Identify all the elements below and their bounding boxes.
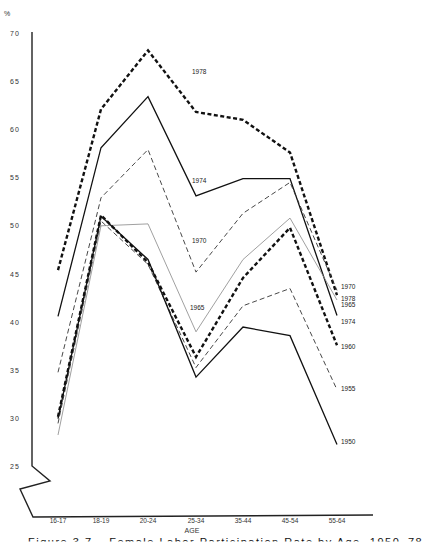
series-line-1960 [58, 215, 337, 417]
inline-label-1978: 1978 [192, 68, 207, 75]
end-label-1970: 1970 [341, 283, 356, 290]
y-tick-label: 65 [10, 78, 20, 85]
end-label-1960: 1960 [341, 343, 356, 350]
end-label-1974: 1974 [341, 318, 356, 325]
series-lines [58, 50, 337, 444]
x-tick-label: 35-44 [235, 517, 252, 524]
series-line-1974 [58, 97, 337, 317]
end-label-1955: 1955 [341, 385, 356, 392]
x-tick-label: 25-34 [188, 517, 205, 524]
y-axis-line [20, 32, 373, 517]
inline-label-1970: 1970 [192, 237, 207, 244]
y-tick-label: 70 [10, 30, 20, 37]
y-tick-label: 55 [10, 174, 20, 181]
end-label-1965: 1965 [341, 301, 356, 308]
series-line-1950 [58, 216, 337, 444]
y-tick-label: 35 [10, 367, 20, 374]
y-tick-labels: 25303540455055606570 [10, 30, 20, 471]
y-tick-label: 45 [10, 271, 20, 278]
inline-label-1965: 1965 [190, 304, 205, 311]
series-line-1978 [58, 50, 337, 295]
x-tick-labels: 16-1718-1920-2425-3435-4445-5455-64 [50, 517, 346, 524]
x-tick-label: 20-24 [140, 517, 157, 524]
inline-label-1974: 1974 [192, 177, 207, 184]
y-tick-label: 40 [10, 319, 20, 326]
y-tick-label: 25 [10, 463, 20, 470]
end-label-1950: 1950 [341, 438, 356, 445]
y-tick-label: 50 [10, 222, 20, 229]
y-axis-title: % [4, 10, 10, 17]
series-labels: 1978197419701965197019781965197419601955… [190, 68, 356, 445]
x-axis-title: AGE [185, 527, 200, 534]
series-line-1965 [58, 218, 337, 435]
x-tick-label: 18-19 [93, 517, 110, 524]
x-tick-label: 16-17 [50, 517, 67, 524]
series-line-1955 [58, 221, 337, 423]
y-tick-label: 60 [10, 126, 20, 133]
y-tick-label: 30 [10, 415, 20, 422]
x-tick-label: 45-54 [282, 517, 299, 524]
x-tick-label: 55-64 [329, 517, 346, 524]
